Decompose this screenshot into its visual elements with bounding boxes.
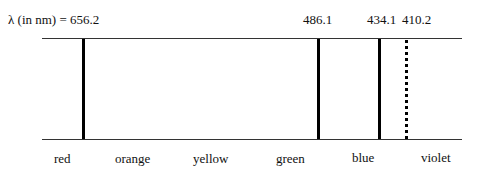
spectral-line-410-dotted xyxy=(405,40,408,139)
wavelength-label-410: 410.2 xyxy=(402,13,431,26)
wavelength-label-656: λ (in nm) = 656.2 xyxy=(8,13,99,26)
color-label-green: green xyxy=(276,152,305,165)
spectral-line-486 xyxy=(317,39,320,139)
color-label-yellow: yellow xyxy=(193,152,228,165)
color-label-red: red xyxy=(54,152,71,165)
top-border-line xyxy=(42,38,462,39)
wavelength-label-434: 434.1 xyxy=(367,13,396,26)
spectral-line-656 xyxy=(82,39,85,139)
spectral-line-434 xyxy=(378,39,381,139)
color-label-blue: blue xyxy=(352,151,374,164)
bottom-border-line xyxy=(42,139,462,140)
color-label-violet: violet xyxy=(421,151,451,164)
wavelength-label-486: 486.1 xyxy=(303,13,332,26)
color-label-orange: orange xyxy=(115,152,150,165)
